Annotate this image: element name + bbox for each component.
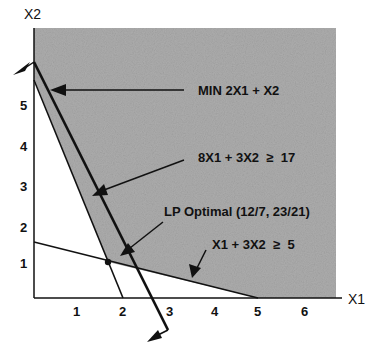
y-tick-4: 4	[20, 139, 27, 154]
y-tick-1: 1	[20, 256, 27, 271]
constraint1-op: ≥	[266, 150, 273, 165]
objective-arrow-bottom-icon	[147, 330, 162, 342]
constraint2-lhs: X1 + 3X2	[212, 237, 266, 252]
x-tick-1: 1	[73, 304, 80, 319]
y-axis-label: X2	[24, 6, 41, 22]
x-tick-6: 6	[301, 304, 308, 319]
optimal-label: LP Optimal (12/7, 23/21)	[164, 204, 310, 219]
y-tick-2: 2	[20, 220, 27, 235]
lp-graph	[0, 0, 376, 349]
objective-label: MIN 2X1 + X2	[198, 83, 279, 98]
x-tick-5: 5	[254, 304, 261, 319]
constraint2-label: X1 + 3X2 ≥ 5	[212, 237, 295, 252]
constraint2-rhs: 5	[287, 237, 294, 252]
objective-arrow-top-icon	[13, 62, 30, 75]
objective-arrow-top-shaft	[22, 62, 34, 70]
optimal-point	[105, 259, 111, 265]
x-tick-4: 4	[211, 304, 218, 319]
constraint1-label: 8X1 + 3X2 ≥ 17	[198, 150, 295, 165]
y-tick-3: 3	[20, 179, 27, 194]
constraint1-lhs: 8X1 + 3X2	[198, 150, 259, 165]
x-tick-3: 3	[166, 304, 173, 319]
x-tick-2: 2	[119, 304, 126, 319]
x-axis-label: X1	[348, 291, 365, 307]
constraint1-rhs: 17	[281, 150, 295, 165]
constraint2-op: ≥	[273, 237, 280, 252]
y-tick-5: 5	[20, 98, 27, 113]
